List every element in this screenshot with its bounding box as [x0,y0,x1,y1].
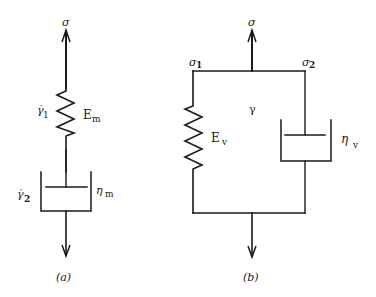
dashpot-em-subscript: m [105,189,114,199]
spring-ev-subscript: v [221,137,228,147]
panel-a-maxwell-model: σ E m γ̇ 1 η m γ̇ 2 (a) [17,16,114,284]
load-label-b: σ [248,16,256,29]
strain-rate-2-symbol: γ̇ [17,188,24,201]
load-arrow-up-b [248,30,256,71]
strain-rate-2-subscript: 2 [24,194,30,204]
strain-label: γ [249,103,256,116]
sigma1-subscript: 1 [196,60,202,70]
panel-b-kelvin-voigt-model: σ σ 1 σ 2 γ E v η v (b) [185,16,359,284]
load-arrow-down-a [62,211,70,256]
spring-em-symbol: E [83,108,92,122]
dashpot-eta-v [281,71,331,213]
sigma2-subscript: 2 [309,60,315,70]
dashpot-ev-subscript: v [352,140,359,150]
dashpot-eta-m [41,150,91,211]
spring-ev-symbol: E [211,131,220,145]
load-arrow-up-a [62,30,70,88]
diagram-canvas: σ E m γ̇ 1 η m γ̇ 2 (a) σ σ [0,0,376,297]
spring-em-subscript: m [92,114,101,124]
strain-rate-1-subscript: 1 [43,110,49,120]
load-arrow-down-b [248,213,256,257]
dashpot-em-symbol: η [96,184,103,197]
diagram-svg: σ E m γ̇ 1 η m γ̇ 2 (a) σ σ [0,0,376,297]
load-label-a: σ [62,16,70,29]
dashpot-ev-symbol: η [341,132,349,146]
spring-ev [185,71,202,213]
caption-b: (b) [243,271,259,284]
caption-a: (a) [56,271,71,284]
